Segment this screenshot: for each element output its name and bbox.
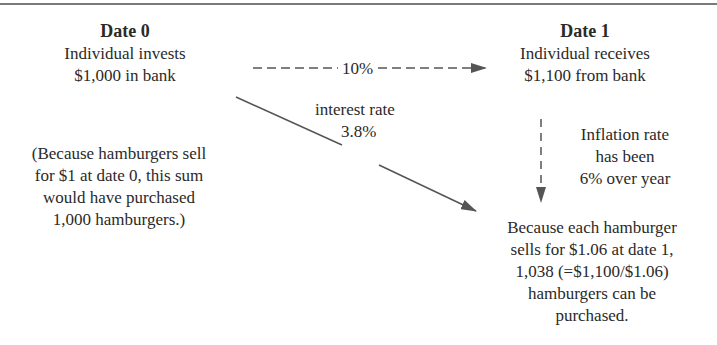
nominal-rate-label: 10% xyxy=(342,58,373,80)
date1-line1: Individual receives xyxy=(470,43,700,65)
date0-note-line3: would have purchased xyxy=(0,187,238,209)
result-line1: Because each hamburger xyxy=(467,217,717,239)
date0-note-line1: (Because hamburgers sell xyxy=(0,143,238,165)
real-arrow-lower xyxy=(379,165,476,211)
result-line5: purchased. xyxy=(467,305,717,327)
date0-line1: Individual invests xyxy=(20,43,230,65)
real-rate-label: 3.8% xyxy=(341,121,376,143)
date0-heading: Date 0 xyxy=(20,19,230,43)
result-line3: 1,038 (=$1,100/$1.06) xyxy=(467,261,717,283)
date0-block: Date 0 Individual invests $1,000 in bank xyxy=(20,19,230,87)
inflation-line2: has been xyxy=(555,146,695,168)
date1-heading: Date 1 xyxy=(470,19,700,43)
date0-note-line4: 1,000 hamburgers.) xyxy=(0,209,238,231)
date0-note: (Because hamburgers sell for $1 at date … xyxy=(0,143,238,231)
inflation-line3: 6% over year xyxy=(555,168,695,190)
inflation-line1: Inflation rate xyxy=(555,124,695,146)
result-line4: hamburgers can be xyxy=(467,283,717,305)
interest-rate-label: interest rate xyxy=(315,99,395,121)
date1-line2: $1,100 from bank xyxy=(470,65,700,87)
date1-block: Date 1 Individual receives $1,100 from b… xyxy=(470,19,700,87)
result-block: Because each hamburger sells for $1.06 a… xyxy=(467,217,717,327)
date0-note-line2: for $1 at date 0, this sum xyxy=(0,165,238,187)
date0-line2: $1,000 in bank xyxy=(20,65,230,87)
inflation-block: Inflation rate has been 6% over year xyxy=(555,124,695,190)
result-line2: sells for $1.06 at date 1, xyxy=(467,239,717,261)
